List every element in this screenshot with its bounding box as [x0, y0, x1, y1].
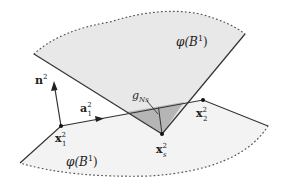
normal-label: n2: [35, 73, 47, 87]
upper-surface-label: φ(B1): [176, 34, 208, 49]
lower-surface-label: φ(B1): [66, 154, 98, 169]
tangent-label: a21: [80, 101, 92, 118]
contact-diagram: φ(B1) φ(B1) n2 a21 x21 x22 x2s gNs: [0, 0, 284, 184]
node-xs-dot: [160, 132, 164, 136]
normal-arrowhead-icon: [51, 81, 58, 91]
node-x1-dot: [59, 124, 63, 128]
node-x2-dot: [201, 98, 205, 102]
normal-vector: [55, 86, 62, 126]
